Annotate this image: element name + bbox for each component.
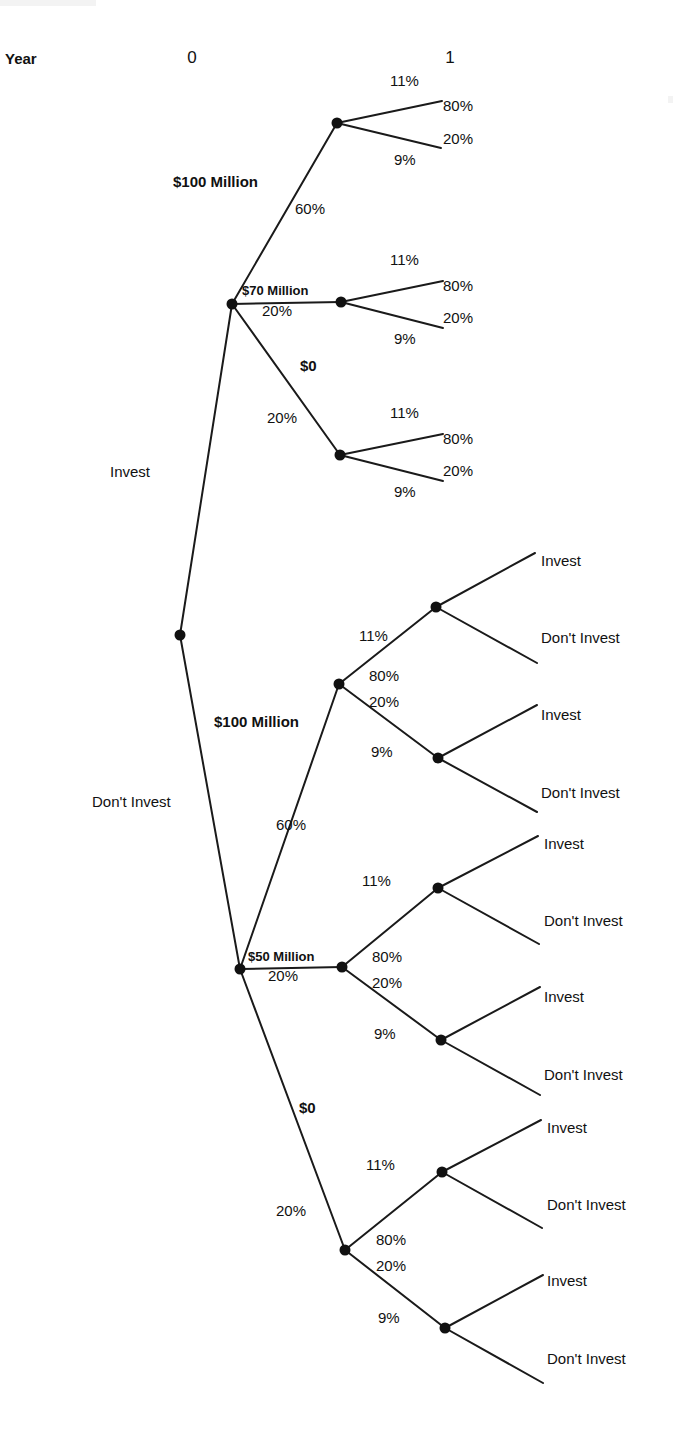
edge-root-dont-invest xyxy=(180,635,240,969)
decision-tree-figure: Year 0 1 Invest Don't Invest $100 Millio… xyxy=(0,0,685,1447)
edge-dc2-down-invest xyxy=(441,987,540,1040)
invest-prob-70m: 20% xyxy=(262,303,292,318)
dont-chance-1-up-dont-invest-label: Don't Invest xyxy=(541,630,620,645)
dont-chance-3-down-invest-label: Invest xyxy=(547,1273,587,1288)
edge-dc3-down-invest xyxy=(445,1275,543,1328)
edge-dc3-up-dont xyxy=(442,1172,542,1228)
dont-chance-3-down-rate: 9% xyxy=(378,1310,400,1325)
dont-chance-2-up-invest-label: Invest xyxy=(544,836,584,851)
dont-chance-3-up-prob: 80% xyxy=(376,1232,406,1247)
edge-dc2-up-invest xyxy=(438,836,538,888)
dont-chance-2-up-rate: 11% xyxy=(362,873,391,888)
edge-dc1-up-invest xyxy=(436,553,535,607)
dont-invest-prob-100m: 60% xyxy=(276,817,306,832)
header-period-0: 0 xyxy=(187,49,196,66)
invest-chance-1-up-prob: 80% xyxy=(443,98,473,113)
dont-chance-2-down-prob: 20% xyxy=(372,975,402,990)
node-dc3-up-decision xyxy=(437,1167,448,1178)
dont-chance-1-down-rate: 9% xyxy=(371,744,393,759)
dont-invest-payoff-100m: $100 Million xyxy=(214,714,299,729)
node-root-decision xyxy=(175,630,186,641)
dont-chance-1-down-dont-invest-label: Don't Invest xyxy=(541,785,620,800)
edge-dc2-down-dont xyxy=(441,1040,540,1095)
node-dc2-down-decision xyxy=(436,1035,447,1046)
node-invest-decision xyxy=(227,299,238,310)
header-row-label: Year xyxy=(5,51,37,66)
edge-dc1-down-invest xyxy=(438,705,537,758)
edge-dc3-up-invest xyxy=(442,1120,541,1172)
root-invest-label: Invest xyxy=(110,464,150,479)
invest-chance-3-up-prob: 80% xyxy=(443,431,473,446)
node-dont-invest-decision xyxy=(235,964,246,975)
edge-ic3-up xyxy=(340,434,443,455)
invest-prob-0: 20% xyxy=(267,410,297,425)
dont-chance-3-down-dont-invest-label: Don't Invest xyxy=(547,1351,626,1366)
dont-invest-payoff-0: $0 xyxy=(299,1100,316,1115)
node-dont-chance-3 xyxy=(340,1245,351,1256)
header-period-1: 1 xyxy=(445,49,454,66)
invest-payoff-100m: $100 Million xyxy=(173,174,258,189)
dont-chance-3-up-rate: 11% xyxy=(366,1157,395,1172)
invest-payoff-0: $0 xyxy=(300,358,317,373)
edge-ic2-down xyxy=(341,302,443,328)
root-dont-invest-label: Don't Invest xyxy=(92,794,171,809)
node-invest-chance-2 xyxy=(336,297,347,308)
edge-dc3-down-dont xyxy=(445,1328,543,1383)
dont-chance-2-up-dont-invest-label: Don't Invest xyxy=(544,913,623,928)
edge-ic3-down xyxy=(340,455,443,481)
edge-dc1-down-dont xyxy=(438,758,537,812)
edge-ic1-up xyxy=(337,101,442,123)
node-dc2-up-decision xyxy=(433,883,444,894)
edge-invest-0 xyxy=(232,304,340,455)
dont-chance-1-down-prob: 20% xyxy=(369,694,399,709)
invest-chance-2-down-prob: 20% xyxy=(443,310,473,325)
node-invest-chance-3 xyxy=(335,450,346,461)
node-dc3-down-decision xyxy=(440,1323,451,1334)
node-invest-chance-1 xyxy=(332,118,343,129)
dont-chance-2-down-dont-invest-label: Don't Invest xyxy=(544,1067,623,1082)
dont-invest-prob-0: 20% xyxy=(276,1203,306,1218)
dont-chance-3-down-prob: 20% xyxy=(376,1258,406,1273)
edge-ic1-down xyxy=(337,123,441,148)
dont-chance-2-down-invest-label: Invest xyxy=(544,989,584,1004)
dont-chance-2-down-rate: 9% xyxy=(374,1026,396,1041)
node-dont-chance-1 xyxy=(334,679,345,690)
edge-ic2-up xyxy=(341,281,443,302)
dont-chance-2-up-prob: 80% xyxy=(372,949,402,964)
edge-root-invest xyxy=(180,304,232,635)
node-dc1-up-decision xyxy=(431,602,442,613)
dont-chance-1-up-invest-label: Invest xyxy=(541,553,581,568)
dont-invest-prob-50m: 20% xyxy=(268,968,298,983)
invest-chance-3-down-prob: 20% xyxy=(443,463,473,478)
edge-dc1-up-dont xyxy=(436,607,537,663)
invest-chance-3-up-rate: 11% xyxy=(390,405,419,420)
tree-edges-canvas xyxy=(0,0,685,1447)
invest-chance-2-up-rate: 11% xyxy=(390,252,419,267)
dont-chance-1-up-prob: 80% xyxy=(369,668,399,683)
edge-dc2-up-dont xyxy=(438,888,539,944)
dont-chance-3-up-dont-invest-label: Don't Invest xyxy=(547,1197,626,1212)
node-dc1-down-decision xyxy=(433,753,444,764)
dont-chance-1-down-invest-label: Invest xyxy=(541,707,581,722)
invest-chance-1-up-rate: 11% xyxy=(390,73,419,88)
dont-chance-1-up-rate: 11% xyxy=(359,628,388,643)
dont-invest-payoff-50m: $50 Million xyxy=(248,950,314,963)
invest-prob-100m: 60% xyxy=(295,201,325,216)
invest-chance-1-down-rate: 9% xyxy=(394,152,416,167)
invest-payoff-70m: $70 Million xyxy=(242,284,308,297)
invest-chance-2-up-prob: 80% xyxy=(443,278,473,293)
invest-chance-1-down-prob: 20% xyxy=(443,131,473,146)
invest-chance-3-down-rate: 9% xyxy=(394,484,416,499)
dont-chance-3-up-invest-label: Invest xyxy=(547,1120,587,1135)
node-dont-chance-2 xyxy=(337,962,348,973)
invest-chance-2-down-rate: 9% xyxy=(394,331,416,346)
